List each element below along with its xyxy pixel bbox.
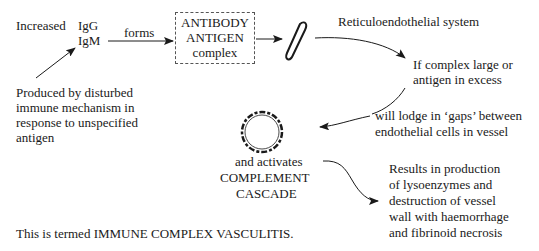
antibody-antigen-complex-box: ANTIBODY ANTIGEN complex — [175, 12, 255, 64]
box-line2: ANTIGEN — [176, 30, 254, 45]
igg-label: IgG — [78, 18, 98, 33]
lodge-line2: endothelial cells in vessel — [375, 124, 508, 139]
box-line1: ANTIBODY — [176, 15, 254, 30]
lodge-to-vessel-arrow — [320, 116, 370, 127]
increased-label: Increased — [16, 18, 66, 33]
results-line1: Results in production — [389, 161, 500, 176]
vessel-icon — [242, 112, 282, 152]
if-complex-line1: If complex large or — [413, 57, 513, 72]
if-complex-line2: antigen in excess — [413, 72, 502, 87]
results-line4: wall with haemorrhage — [389, 209, 509, 224]
igm-label: IgM — [78, 33, 100, 48]
activates-line1: and activates — [235, 154, 303, 169]
results-line3: destruction of vessel — [389, 193, 496, 208]
res-to-if-arrow — [315, 38, 405, 58]
box-line3: complex — [176, 45, 254, 60]
produced-line1: Produced by disturbed — [16, 85, 133, 100]
lodge-line1: will lodge in ‘gaps’ between — [375, 108, 522, 123]
results-line2: of lysoenzymes and — [389, 177, 492, 192]
activates-line3: CASCADE — [236, 186, 297, 201]
produced-arrow — [36, 48, 75, 78]
activates-to-results-arrow — [323, 161, 378, 201]
results-line5: and fibrinoid necrosis — [389, 225, 502, 240]
footer-statement: This is termed IMMUNE COMPLEX VASCULITIS… — [16, 226, 294, 241]
res-label: Reticuloendothelial system — [338, 14, 479, 29]
produced-line4: antigen — [16, 130, 54, 145]
produced-line2: immune mechanism in — [16, 100, 134, 115]
vessel-inner-icon — [245, 115, 279, 149]
forms-label: forms — [124, 25, 154, 40]
produced-line3: response to unspecified — [16, 115, 138, 130]
activates-line2: COMPLEMENT — [220, 170, 310, 185]
reticuloendothelial-cell-icon — [286, 22, 306, 59]
